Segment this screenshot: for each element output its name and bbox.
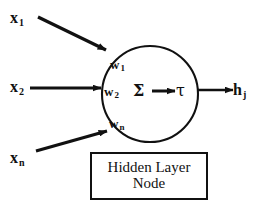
weight-label-wn-base: w [109, 116, 118, 131]
input-label-x2: x2 [10, 79, 23, 95]
output-label-hj: hj [233, 82, 245, 98]
diagram-canvas: x1 x2 xn w1 w2 wn Σ τ hj Hidden Layer No… [0, 0, 261, 215]
summation-symbol: Σ [133, 83, 144, 99]
input-arrow-xn [36, 131, 107, 151]
weight-label-wn-subscript: n [119, 122, 124, 132]
input-label-x1-subscript: 1 [19, 17, 24, 28]
input-label-xn: xn [10, 150, 24, 166]
weight-label-w2-base: w [104, 84, 113, 99]
input-label-x2-subscript: 2 [19, 86, 24, 97]
weight-label-w2-subscript: 2 [114, 90, 119, 100]
input-label-xn-base: x [10, 149, 18, 166]
weight-label-w2: w2 [104, 85, 118, 98]
weight-label-w1: w1 [110, 58, 124, 71]
input-label-x1-base: x [10, 9, 18, 26]
weight-label-wn: wn [109, 117, 123, 130]
input-arrow-x1 [38, 17, 106, 50]
weight-label-w1-base: w [110, 57, 119, 72]
caption-line-1: Hidden Layer [108, 160, 191, 176]
weight-label-w1-subscript: 1 [120, 63, 125, 73]
caption-line-2: Node [133, 176, 166, 192]
output-label-hj-subscript: j [243, 89, 246, 100]
transfer-function-symbol: τ [176, 83, 185, 99]
hidden-layer-node-caption-box: Hidden Layer Node [90, 152, 208, 200]
input-label-x1: x1 [10, 10, 23, 26]
input-label-x2-base: x [10, 78, 18, 95]
output-label-hj-base: h [233, 81, 242, 98]
input-label-xn-subscript: n [19, 157, 25, 168]
